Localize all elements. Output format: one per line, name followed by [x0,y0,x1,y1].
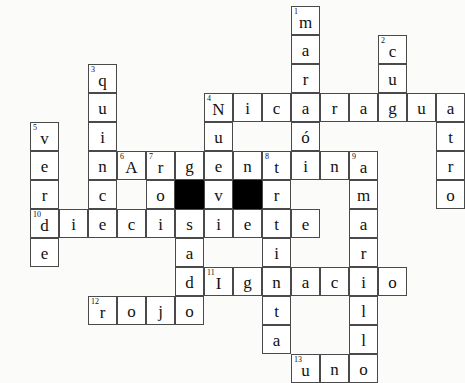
letter-cell[interactable]: i [88,122,117,151]
letter-cell[interactable]: r [320,93,349,122]
letter-cell[interactable]: i [146,209,175,238]
cell-letter: i [147,215,174,232]
letter-cell[interactable]: 7r [146,151,175,180]
letter-cell[interactable]: l [349,325,378,354]
letter-cell[interactable]: a [175,238,204,267]
cell-letter: a [350,215,377,232]
letter-cell[interactable]: 5v [30,122,59,151]
cell-letter: o [350,360,377,377]
cell-letter: n [234,157,261,174]
letter-cell[interactable]: n [320,151,349,180]
letter-cell[interactable]: 4N [204,93,233,122]
letter-cell[interactable]: g [378,93,407,122]
letter-cell[interactable]: 11I [204,267,233,296]
cell-letter: o [147,186,174,203]
letter-cell[interactable]: u [88,93,117,122]
letter-cell[interactable]: a [436,93,465,122]
letter-cell[interactable]: a [349,93,378,122]
letter-cell[interactable]: u [204,122,233,151]
letter-cell[interactable]: c [262,93,291,122]
letter-cell[interactable]: s [175,209,204,238]
cell-letter: r [31,186,58,203]
cell-letter: c [263,99,290,116]
letter-cell[interactable]: o [436,180,465,209]
cell-letter: r [89,304,116,322]
letter-cell[interactable]: r [349,238,378,267]
cell-letter: i [234,99,261,116]
cell-letter: e [89,215,116,232]
letter-cell[interactable]: m [349,180,378,209]
cell-letter: A [118,159,145,177]
letter-cell[interactable]: t [436,122,465,151]
cell-letter: i [89,128,116,145]
letter-cell[interactable]: o [175,296,204,325]
letter-cell[interactable]: o [146,180,175,209]
letter-cell[interactable]: 9a [349,151,378,180]
letter-cell[interactable]: e [88,209,117,238]
letter-cell[interactable]: i [291,151,320,180]
letter-cell[interactable]: i [204,209,233,238]
letter-cell[interactable]: 12r [88,296,117,325]
letter-cell[interactable]: v [204,180,233,209]
letter-cell[interactable]: 10d [30,209,59,238]
letter-cell[interactable]: o [378,267,407,296]
letter-cell[interactable]: a [291,93,320,122]
cell-letter: n [263,273,290,290]
letter-cell[interactable]: n [233,151,262,180]
letter-cell[interactable]: c [88,180,117,209]
letter-cell[interactable]: a [262,325,291,354]
letter-cell[interactable]: e [30,238,59,267]
cell-letter: e [205,157,232,174]
letter-cell[interactable]: r [262,180,291,209]
letter-cell[interactable]: e [204,151,233,180]
letter-cell[interactable]: r [291,64,320,93]
letter-cell[interactable]: l [349,296,378,325]
letter-cell[interactable]: e [233,209,262,238]
cell-letter: n [321,157,348,174]
letter-cell[interactable]: 3q [88,64,117,93]
letter-cell[interactable]: a [349,209,378,238]
block-cell [175,180,204,209]
letter-cell[interactable]: a [291,35,320,64]
letter-cell[interactable]: i [349,267,378,296]
cell-letter: g [234,273,261,290]
letter-cell[interactable]: u [378,64,407,93]
cell-letter: ó [292,128,319,145]
cell-letter: l [350,302,377,319]
letter-cell[interactable]: n [262,267,291,296]
letter-cell[interactable]: i [233,93,262,122]
letter-cell[interactable]: d [175,267,204,296]
cell-letter: i [263,244,290,261]
letter-cell[interactable]: 1m [291,6,320,35]
cell-letter: v [31,130,58,148]
letter-cell[interactable]: r [30,180,59,209]
letter-cell[interactable]: r [436,151,465,180]
letter-cell[interactable]: 2c [378,35,407,64]
letter-cell[interactable]: n [320,354,349,383]
letter-cell[interactable]: t [262,296,291,325]
letter-cell[interactable]: c [117,209,146,238]
cell-letter: c [118,215,145,232]
letter-cell[interactable]: n [88,151,117,180]
letter-cell[interactable]: j [146,296,175,325]
letter-cell[interactable]: a [291,267,320,296]
letter-cell[interactable]: 6A [117,151,146,180]
letter-cell[interactable]: t [262,209,291,238]
letter-cell[interactable]: e [291,209,320,238]
letter-cell[interactable]: 13u [291,354,320,383]
letter-cell[interactable]: i [262,238,291,267]
cell-letter: a [292,99,319,116]
letter-cell[interactable]: u [407,93,436,122]
cell-letter: u [292,362,319,380]
letter-cell[interactable]: o [117,296,146,325]
letter-cell[interactable]: ó [291,122,320,151]
letter-cell[interactable]: o [349,354,378,383]
letter-cell[interactable]: g [175,151,204,180]
letter-cell[interactable]: 8t [262,151,291,180]
letter-cell[interactable]: e [30,151,59,180]
letter-cell[interactable]: g [233,267,262,296]
letter-cell[interactable]: i [59,209,88,238]
cell-letter: t [263,159,290,177]
letter-cell[interactable]: c [320,267,349,296]
